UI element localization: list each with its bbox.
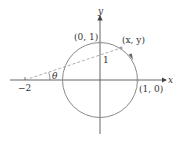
label-moving-point: (x, y) xyxy=(122,35,145,45)
point-right xyxy=(136,78,139,81)
label-theta: θ xyxy=(52,71,58,81)
angle-arc xyxy=(49,72,50,80)
x-axis-label: x xyxy=(168,75,173,85)
y-axis-label: y xyxy=(97,6,104,16)
unit-circle-diagram: y x (0, 1) (x, y) (1, 0) −2 1 θ xyxy=(0,0,181,141)
label-top-point: (0, 1) xyxy=(74,32,98,42)
point-top xyxy=(98,41,101,44)
label-y-intercept: 1 xyxy=(103,55,109,65)
point-moving xyxy=(119,46,122,49)
label-right-point: (1, 0) xyxy=(139,84,163,94)
label-minus-2: −2 xyxy=(18,83,31,93)
